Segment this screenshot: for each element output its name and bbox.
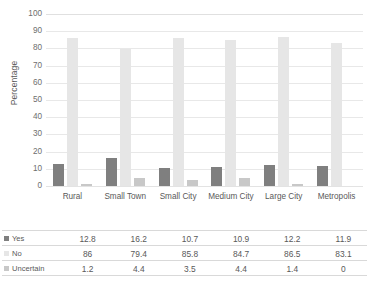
bar-yes-rural[interactable] xyxy=(53,164,64,186)
table-cell-no-metropolis: 83.1 xyxy=(318,249,369,259)
legend-item-no[interactable]: No xyxy=(0,249,62,258)
bar-uncertain-large-city[interactable] xyxy=(292,184,303,186)
bar-yes-small-town[interactable] xyxy=(106,158,117,186)
table-value-cells: 8679.485.884.786.583.1 xyxy=(62,249,369,259)
table-cell-yes-small-town: 16.2 xyxy=(113,234,164,244)
table-cell-uncertain-medium-city: 4.4 xyxy=(216,264,267,274)
bar-yes-large-city[interactable] xyxy=(264,165,275,186)
legend-swatch-icon xyxy=(4,236,9,241)
bar-group xyxy=(310,14,363,186)
x-axis-label-medium-city: Medium City xyxy=(204,192,257,201)
table-cell-yes-large-city: 12.2 xyxy=(267,234,318,244)
legend-item-uncertain[interactable]: Uncertain xyxy=(0,264,62,273)
y-axis-tick-30: 30 xyxy=(16,130,42,138)
y-axis-tick-40: 40 xyxy=(16,113,42,121)
bar-group xyxy=(99,14,152,186)
legend-item-yes[interactable]: Yes xyxy=(0,234,62,243)
table-row: Uncertain1.24.43.54.41.40 xyxy=(0,261,369,276)
table-cell-yes-small-city: 10.7 xyxy=(164,234,215,244)
bar-no-metropolis[interactable] xyxy=(331,43,342,186)
x-axis-label-large-city: Large City xyxy=(257,192,310,201)
y-axis-tick-10: 10 xyxy=(16,165,42,173)
chart-figure: Percentage 1009080706050403020100 RuralS… xyxy=(0,0,369,287)
table-row: No8679.485.884.786.583.1 xyxy=(0,246,369,261)
bar-uncertain-small-town[interactable] xyxy=(134,178,145,186)
y-axis-tick-50: 50 xyxy=(16,96,42,104)
bar-no-rural[interactable] xyxy=(67,38,78,186)
legend-label: No xyxy=(12,249,22,258)
y-axis-tick-labels: 1009080706050403020100 xyxy=(16,14,42,186)
table-value-cells: 1.24.43.54.41.40 xyxy=(62,264,369,274)
table-cell-yes-metropolis: 11.9 xyxy=(318,234,369,244)
table-cell-no-medium-city: 84.7 xyxy=(216,249,267,259)
table-cell-uncertain-metropolis: 0 xyxy=(318,264,369,274)
table-cell-no-large-city: 86.5 xyxy=(267,249,318,259)
x-axis-label-rural: Rural xyxy=(46,192,99,201)
table-cell-uncertain-small-town: 4.4 xyxy=(113,264,164,274)
legend-label: Uncertain xyxy=(12,264,45,273)
table-value-cells: 12.816.210.710.912.211.9 xyxy=(62,234,369,244)
legend-label: Yes xyxy=(12,234,24,243)
table-cell-no-small-city: 85.8 xyxy=(164,249,215,259)
bar-no-small-city[interactable] xyxy=(173,38,184,186)
table-row: Yes12.816.210.710.912.211.9 xyxy=(0,231,369,246)
gridline-0 xyxy=(46,186,363,187)
y-axis-tick-80: 80 xyxy=(16,44,42,52)
bar-group xyxy=(257,14,310,186)
bar-yes-metropolis[interactable] xyxy=(317,166,328,186)
bar-groups xyxy=(46,14,363,186)
bar-no-small-town[interactable] xyxy=(120,49,131,186)
table-cell-uncertain-small-city: 3.5 xyxy=(164,264,215,274)
y-axis-tick-60: 60 xyxy=(16,79,42,87)
x-axis-category-labels: RuralSmall TownSmall CityMedium CityLarg… xyxy=(46,192,363,201)
table-cell-no-small-town: 79.4 xyxy=(113,249,164,259)
bar-group xyxy=(46,14,99,186)
table-cell-yes-medium-city: 10.9 xyxy=(216,234,267,244)
data-table: Yes12.816.210.710.912.211.9No8679.485.88… xyxy=(0,222,369,287)
bar-uncertain-small-city[interactable] xyxy=(187,180,198,186)
bar-yes-small-city[interactable] xyxy=(159,168,170,186)
bar-chart: Percentage 1009080706050403020100 RuralS… xyxy=(0,0,369,216)
x-axis-label-small-city: Small City xyxy=(152,192,205,201)
y-axis-tick-70: 70 xyxy=(16,62,42,70)
y-axis-tick-100: 100 xyxy=(16,10,42,18)
bar-yes-medium-city[interactable] xyxy=(211,167,222,186)
bar-uncertain-rural[interactable] xyxy=(81,184,92,186)
legend-swatch-icon xyxy=(4,266,9,271)
bar-group xyxy=(152,14,205,186)
table-cell-no-rural: 86 xyxy=(62,249,113,259)
bar-group xyxy=(204,14,257,186)
plot-area xyxy=(46,14,363,186)
x-axis-label-small-town: Small Town xyxy=(99,192,152,201)
y-axis-tick-20: 20 xyxy=(16,148,42,156)
y-axis-tick-90: 90 xyxy=(16,27,42,35)
bar-no-large-city[interactable] xyxy=(278,37,289,186)
x-axis-label-metropolis: Metropolis xyxy=(310,192,363,201)
legend-swatch-icon xyxy=(4,251,9,256)
table-cell-uncertain-rural: 1.2 xyxy=(62,264,113,274)
table-cell-yes-rural: 12.8 xyxy=(62,234,113,244)
y-axis-tick-0: 0 xyxy=(16,182,42,190)
table-cell-uncertain-large-city: 1.4 xyxy=(267,264,318,274)
bar-no-medium-city[interactable] xyxy=(225,40,236,186)
bar-uncertain-medium-city[interactable] xyxy=(239,178,250,186)
